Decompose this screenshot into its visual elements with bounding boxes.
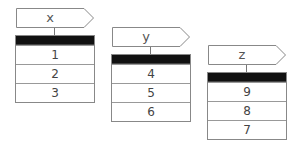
table-cell: 4 [112, 64, 190, 83]
table-cell: 9 [208, 82, 286, 101]
table-cell: 6 [112, 102, 190, 121]
table-cell: 8 [208, 101, 286, 120]
variable-label-tag: x [16, 8, 94, 28]
table-cell: 3 [16, 83, 94, 102]
table-header [208, 73, 286, 82]
value-table: 1 2 3 [15, 35, 95, 103]
table-cell: 5 [112, 83, 190, 102]
variable-label-tag: y [112, 27, 190, 47]
table-cell: 7 [208, 120, 286, 139]
table-header [112, 55, 190, 64]
value-table: 9 8 7 [207, 72, 287, 140]
table-header [16, 36, 94, 45]
table-cell: 1 [16, 45, 94, 64]
variable-label-tag: z [208, 45, 286, 65]
table-cell: 2 [16, 64, 94, 83]
variable-name: x [16, 8, 84, 28]
value-table: 4 5 6 [111, 54, 191, 122]
variable-name: y [112, 27, 180, 47]
variable-name: z [208, 45, 276, 65]
